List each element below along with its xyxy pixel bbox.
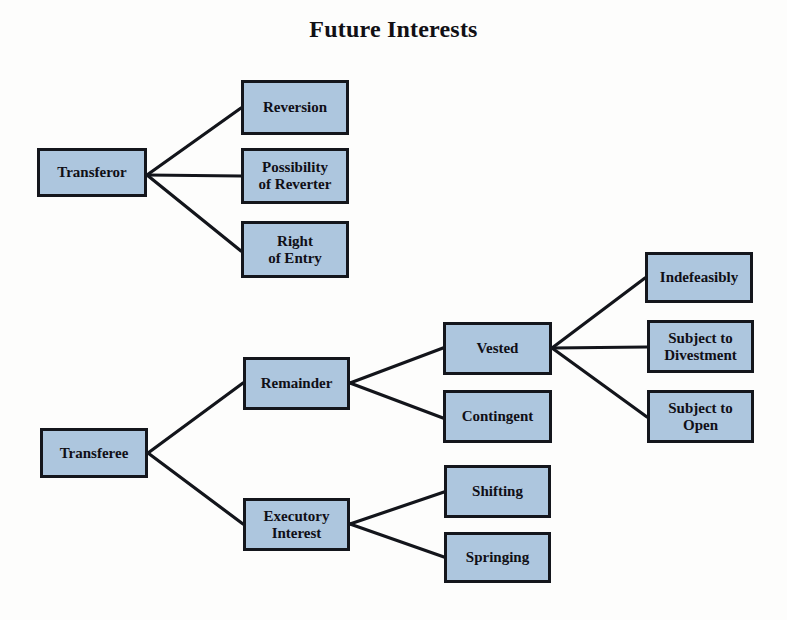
node-rightentry[interactable]: Right of Entry <box>241 221 349 278</box>
edge-layer <box>0 0 787 620</box>
edge-transferee-to-remainder <box>148 383 243 453</box>
node-divestment[interactable]: Subject to Divestment <box>647 320 754 373</box>
node-label: Subject to Open <box>668 400 733 434</box>
node-label: Vested <box>477 340 519 357</box>
edge-transferee-to-executory <box>148 453 243 524</box>
node-label: Shifting <box>472 483 523 500</box>
node-remainder[interactable]: Remainder <box>243 357 350 410</box>
edge-transferor-to-possibility <box>147 175 241 176</box>
edge-vested-to-indefeasibly <box>552 278 645 348</box>
node-label: Subject to Divestment <box>664 330 736 364</box>
node-springing[interactable]: Springing <box>444 532 551 583</box>
node-label: Springing <box>466 549 529 566</box>
node-executory[interactable]: Executory Interest <box>243 498 350 551</box>
node-label: Transferor <box>57 164 126 181</box>
node-label: Reversion <box>263 99 327 116</box>
node-open[interactable]: Subject to Open <box>647 390 754 443</box>
edge-remainder-to-contingent <box>350 383 443 418</box>
edge-executory-to-springing <box>350 524 444 557</box>
edge-transferor-to-rightentry <box>147 175 241 251</box>
node-vested[interactable]: Vested <box>443 322 552 375</box>
node-label: Transferee <box>60 445 129 462</box>
diagram-canvas: Future Interests TransferorReversionPoss… <box>0 0 787 620</box>
edge-remainder-to-vested <box>350 348 443 383</box>
node-label: Executory Interest <box>264 508 330 542</box>
node-transferor[interactable]: Transferor <box>37 148 147 197</box>
node-reversion[interactable]: Reversion <box>241 80 349 135</box>
node-label: Indefeasibly <box>660 269 738 286</box>
node-label: Possibility of Reverter <box>259 159 332 193</box>
node-shifting[interactable]: Shifting <box>444 465 551 518</box>
node-label: Right of Entry <box>268 233 322 267</box>
node-transferee[interactable]: Transferee <box>40 428 148 478</box>
edge-transferor-to-reversion <box>147 108 241 175</box>
node-possibility[interactable]: Possibility of Reverter <box>241 148 349 204</box>
node-indefeasibly[interactable]: Indefeasibly <box>645 252 753 303</box>
node-label: Contingent <box>462 408 534 425</box>
edge-vested-to-divestment <box>552 347 647 348</box>
node-contingent[interactable]: Contingent <box>443 390 552 443</box>
node-label: Remainder <box>261 375 333 392</box>
edge-vested-to-open <box>552 348 647 417</box>
edge-executory-to-shifting <box>350 492 444 524</box>
